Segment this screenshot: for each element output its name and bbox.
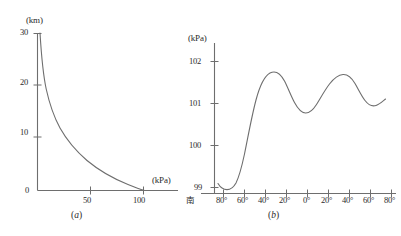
figure-b-xtick-40-north: 40° <box>342 196 353 205</box>
figure-a-xtick-100: 100 <box>133 196 145 205</box>
figure-a-x-axis-unit: (kPa) <box>152 176 171 185</box>
figure-a-xtick-50: 50 <box>83 196 91 205</box>
figure-a-altitude-vs-pressure: (km) (kPa) 30 20 10 0 50 100 (a) <box>0 0 190 236</box>
figure-b-ytick-102: 102 <box>189 57 201 66</box>
figure-b-xtick-60-south: 60° <box>237 196 248 205</box>
figure-b-xtick-20-north: 20° <box>321 196 332 205</box>
figure-a-y-axis-unit: (km) <box>26 16 43 25</box>
figure-a-caption-close: ) <box>79 210 82 220</box>
figure-sheet: (km) (kPa) 30 20 10 0 50 100 (a) <box>0 0 401 236</box>
figure-a-ytick-10: 10 <box>20 128 28 137</box>
figure-b-xtick-80-south: 80° <box>216 196 227 205</box>
figure-a-curve <box>40 33 144 190</box>
figure-a-caption: (a) <box>71 211 82 221</box>
figure-b-pressure-vs-latitude: (kPa) 102 101 100 99 南 80° 60° 40° 20° 0… <box>183 0 401 236</box>
figure-a-ytick-20: 20 <box>20 78 28 87</box>
figure-b-ytick-100: 100 <box>189 141 201 150</box>
figure-a-ytick-30: 30 <box>20 28 28 37</box>
figure-b-ytick-101: 101 <box>189 99 201 108</box>
figure-b-xtick-40-south: 40° <box>258 196 269 205</box>
figure-b-south-pole-label: 南 <box>186 196 195 205</box>
figure-b-ytick-99: 99 <box>194 183 202 192</box>
figure-b-xtick-20-south: 20° <box>279 196 290 205</box>
figure-b-xtick-0: 0° <box>303 196 310 205</box>
figure-a-plot <box>0 0 190 236</box>
figure-b-curve <box>218 72 386 190</box>
figure-b-caption: (b) <box>268 211 279 221</box>
figure-b-xtick-60-north: 60° <box>363 196 374 205</box>
figure-b-caption-close: ) <box>276 210 279 220</box>
figure-a-ytick-0: 0 <box>25 186 29 195</box>
figure-b-xtick-80-north: 80° <box>384 196 395 205</box>
figure-b-y-axis-unit: (kPa) <box>188 34 207 43</box>
